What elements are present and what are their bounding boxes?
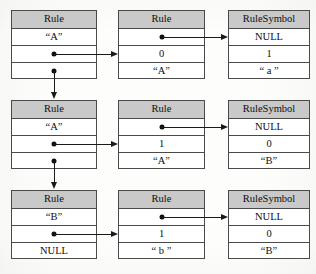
node-rule-a2: Rule “A” (11, 100, 97, 169)
node-header: Rule (12, 101, 96, 118)
node-cell-pointer (12, 135, 96, 152)
node-cell-pointer (119, 28, 204, 45)
node-cell-pointer (12, 225, 96, 242)
node-cell-index: 0 (119, 45, 204, 62)
arrowhead-icon (51, 182, 57, 189)
pointer-dot-icon (52, 69, 57, 74)
node-header: Rule (119, 11, 204, 28)
pointer-dot-icon (52, 52, 57, 57)
node-header: RuleSymbol (229, 11, 309, 28)
node-header: RuleSymbol (229, 191, 309, 208)
node-rule-b: Rule “B” NULL (11, 190, 97, 259)
node-cell-flag: 1 (229, 45, 309, 62)
node-cell-symbol: “A” (119, 62, 204, 79)
node-cell-symbol: “ a ” (229, 62, 309, 79)
arrowhead-icon (111, 141, 118, 147)
arrowhead-icon (221, 34, 228, 40)
node-rule-a1: Rule “A” (11, 10, 97, 79)
arrowhead-icon (221, 214, 228, 220)
node-cell-index: 1 (119, 135, 204, 152)
arrowhead-icon (221, 124, 228, 130)
pointer-dot-icon (159, 215, 164, 220)
node-header: Rule (119, 101, 204, 118)
node-header: Rule (12, 191, 96, 208)
node-rule-a2-body: Rule 1 “A” (118, 100, 205, 169)
arrowhead-icon (111, 231, 118, 237)
node-cell-pointer (12, 45, 96, 62)
linked-structure-diagram: Rule “A” Rule 0 “A” RuleSymbol NULL 1 “ … (0, 0, 316, 274)
node-cell-next: NULL (12, 242, 96, 259)
node-header: Rule (12, 11, 96, 28)
pointer-dot-icon (52, 232, 57, 237)
pointer-dot-icon (159, 125, 164, 130)
node-cell-pointer (119, 208, 204, 225)
node-rulesymbol-b2: RuleSymbol NULL 0 “B” (228, 190, 310, 259)
node-cell-name: “A” (12, 28, 96, 45)
node-cell-flag: 0 (229, 225, 309, 242)
node-rulesymbol-b1: RuleSymbol NULL 0 “B” (228, 100, 310, 169)
node-cell-next: NULL (229, 118, 309, 135)
node-rule-b-body: Rule 1 “ b ” (118, 190, 205, 259)
node-rulesymbol-a: RuleSymbol NULL 1 “ a ” (228, 10, 310, 79)
pointer-dot-icon (52, 142, 57, 147)
pointer-dot-icon (52, 159, 57, 164)
node-cell-next: NULL (229, 28, 309, 45)
node-cell-name: “A” (12, 118, 96, 135)
node-header: Rule (119, 191, 204, 208)
node-cell-symbol: “B” (229, 242, 309, 259)
node-cell-pointer (119, 118, 204, 135)
node-rule-a1-body: Rule 0 “A” (118, 10, 205, 79)
node-cell-symbol: “A” (119, 152, 204, 169)
node-cell-pointer (12, 152, 96, 169)
node-cell-symbol: “B” (229, 152, 309, 169)
node-cell-next: NULL (229, 208, 309, 225)
arrowhead-icon (51, 92, 57, 99)
node-cell-symbol: “ b ” (119, 242, 204, 259)
node-header: RuleSymbol (229, 101, 309, 118)
node-cell-index: 1 (119, 225, 204, 242)
arrowhead-icon (111, 51, 118, 57)
node-cell-flag: 0 (229, 135, 309, 152)
pointer-dot-icon (159, 35, 164, 40)
node-cell-name: “B” (12, 208, 96, 225)
node-cell-pointer (12, 62, 96, 79)
